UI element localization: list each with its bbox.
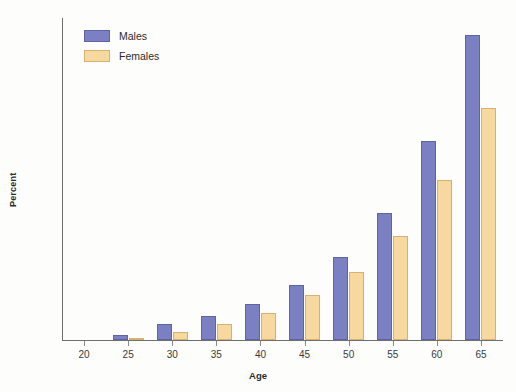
x-tick-mark (260, 341, 261, 346)
legend-item-male: Males (84, 27, 159, 44)
x-tick-label: 45 (285, 349, 325, 360)
x-tick-mark (393, 341, 394, 346)
bar-female-55 (393, 236, 408, 340)
bar-female-40 (261, 313, 276, 340)
bar-female-60 (437, 180, 452, 340)
x-axis-label: Age (0, 370, 516, 381)
bar-male-60 (421, 141, 436, 340)
x-tick-label: 30 (152, 349, 192, 360)
x-tick-mark (305, 341, 306, 346)
bar-male-65 (465, 35, 480, 340)
x-tick-mark (481, 341, 482, 346)
bar-male-25 (113, 335, 128, 340)
bar-female-25 (129, 338, 144, 340)
x-tick-label: 55 (373, 349, 413, 360)
legend-item-female: Females (84, 47, 159, 64)
bar-female-45 (305, 295, 320, 340)
bar-female-50 (349, 272, 364, 340)
bar-female-65 (481, 108, 496, 340)
bar-chart: Percent Age 024681012141618202224262830 … (0, 0, 516, 392)
legend: MalesFemales (84, 27, 159, 67)
legend-swatch-female (84, 50, 110, 62)
x-tick-label: 40 (240, 349, 280, 360)
bar-male-55 (377, 213, 392, 340)
x-tick-label: 50 (329, 349, 369, 360)
legend-label: Females (119, 50, 159, 62)
x-tick-mark (172, 341, 173, 346)
bar-male-40 (245, 304, 260, 340)
legend-label: Males (119, 30, 147, 42)
x-tick-mark (128, 341, 129, 346)
x-tick-label: 35 (196, 349, 236, 360)
bar-female-30 (173, 332, 188, 340)
x-tick-mark (349, 341, 350, 346)
x-tick-mark (216, 341, 217, 346)
x-tick-label: 25 (108, 349, 148, 360)
bar-male-45 (289, 285, 304, 340)
bar-male-35 (201, 316, 216, 340)
x-tick-mark (437, 341, 438, 346)
legend-swatch-male (84, 30, 110, 42)
y-axis-label: Percent (8, 155, 26, 225)
x-tick-label: 60 (417, 349, 457, 360)
bar-male-50 (333, 257, 348, 340)
x-tick-mark (84, 341, 85, 346)
bar-male-30 (157, 324, 172, 340)
x-tick-label: 20 (64, 349, 104, 360)
x-tick-label: 65 (461, 349, 501, 360)
bar-female-35 (217, 324, 232, 340)
